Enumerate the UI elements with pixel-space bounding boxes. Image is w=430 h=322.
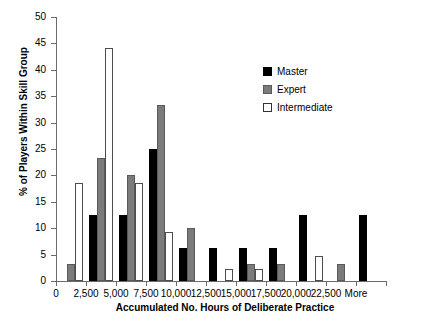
legend-label: Expert — [277, 84, 306, 95]
x-tick-label: More — [332, 288, 380, 299]
bar-master-2500 — [89, 215, 97, 281]
bar-expert-7500 — [157, 105, 165, 281]
bar-expert-2500 — [97, 158, 105, 281]
y-tick-label: 0 — [0, 276, 46, 286]
y-tick-label: 15 — [0, 197, 46, 207]
legend-item-intermediate[interactable]: Intermediate — [263, 99, 333, 115]
bar-expert-15000 — [247, 264, 255, 281]
bar-intermediate-15000 — [255, 269, 263, 281]
bar-intermediate-20000 — [315, 256, 323, 281]
x-axis-title: Accumulated No. Hours of Deliberate Prac… — [40, 302, 410, 313]
x-tick — [116, 281, 117, 286]
legend-swatch-icon — [263, 85, 272, 94]
y-tick-label: 35 — [0, 91, 46, 101]
bar-chart: % of Players Within Skill Group Accumula… — [0, 0, 430, 322]
x-tick — [236, 281, 237, 286]
bar-master-15000 — [239, 248, 247, 281]
bar-master-12500 — [209, 248, 217, 281]
legend-swatch-icon — [263, 67, 272, 76]
y-tick-label: 20 — [0, 170, 46, 180]
legend: MasterExpertIntermediate — [263, 63, 333, 117]
x-tick — [176, 281, 177, 286]
x-axis-line — [56, 281, 387, 282]
y-tick-label: 30 — [0, 118, 46, 128]
legend-label: Master — [277, 66, 308, 77]
legend-item-expert[interactable]: Expert — [263, 81, 333, 97]
x-tick — [386, 281, 387, 286]
bar-intermediate-12500 — [225, 269, 233, 281]
legend-swatch-icon — [263, 103, 272, 112]
bar-expert-5000 — [127, 175, 135, 281]
plot-area — [56, 17, 386, 281]
y-tick-label: 25 — [0, 144, 46, 154]
bar-intermediate-7500 — [165, 232, 173, 281]
bar-intermediate-2500 — [105, 48, 113, 281]
y-tick-label: 5 — [0, 250, 46, 260]
bar-expert-22500 — [337, 264, 345, 281]
y-tick-label: 45 — [0, 38, 46, 48]
legend-item-master[interactable]: Master — [263, 63, 333, 79]
x-tick — [266, 281, 267, 286]
bar-expert-17500 — [277, 264, 285, 281]
bar-expert-10000 — [187, 228, 195, 281]
legend-label: Intermediate — [277, 102, 333, 113]
y-tick-label: 40 — [0, 65, 46, 75]
y-tick-label: 10 — [0, 223, 46, 233]
x-tick — [296, 281, 297, 286]
bar-master-20000 — [299, 215, 307, 281]
bar-master-5000 — [119, 215, 127, 281]
x-tick — [206, 281, 207, 286]
bar-intermediate-5000 — [135, 183, 143, 281]
x-tick — [356, 281, 357, 286]
x-tick — [326, 281, 327, 286]
bar-expert-0 — [67, 264, 75, 281]
bar-master-7500 — [149, 149, 157, 281]
bar-master-10000 — [179, 248, 187, 281]
x-tick — [86, 281, 87, 286]
x-tick — [146, 281, 147, 286]
bar-master-17500 — [269, 248, 277, 281]
x-tick — [56, 281, 57, 286]
bar-master-More — [359, 215, 367, 281]
y-tick-label: 50 — [0, 12, 46, 22]
bar-intermediate-0 — [75, 183, 83, 281]
